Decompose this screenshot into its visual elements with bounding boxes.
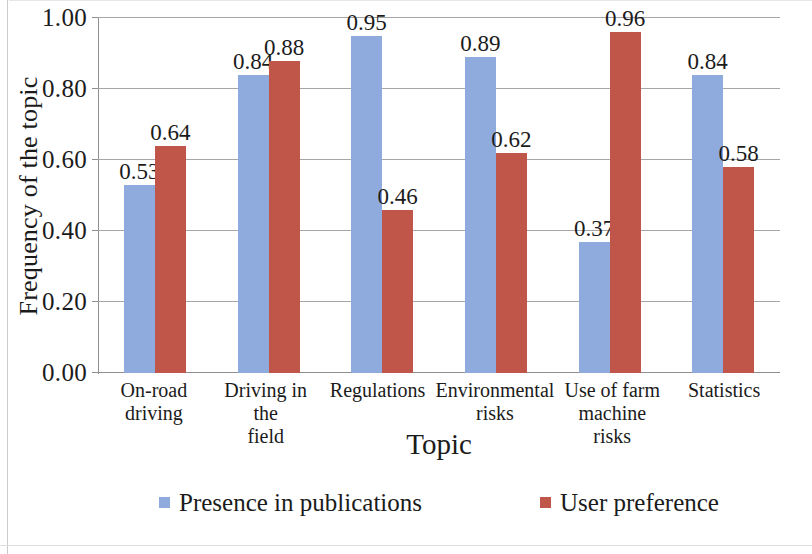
bars-layer: 0.530.640.840.880.950.460.890.620.370.96… [98,18,780,373]
category-group: 0.530.64 [98,18,212,373]
y-axis-title-text: Frequency of the topic [14,76,44,315]
legend-swatch-icon [540,497,551,508]
bar-value-label: 0.88 [264,36,304,59]
category-group: 0.840.58 [666,18,780,373]
bar-pair: 0.840.58 [666,18,780,373]
bar: 0.37 [579,242,610,373]
bar: 0.84 [238,75,269,373]
x-axis-category-label-line: risks [435,402,554,425]
legend: Presence in publicationsUser preference [98,490,780,515]
bar-pair: 0.840.88 [212,18,326,373]
bar-value-label: 0.84 [688,50,728,73]
y-axis-title: Frequency of the topic [8,18,50,373]
bar: 0.46 [382,210,413,373]
bar: 0.88 [269,61,300,373]
x-axis-title: Topic [98,428,780,461]
bar: 0.84 [692,75,723,373]
x-axis-category-label-line: Regulations [324,379,432,402]
legend-label: Presence in publications [179,490,422,515]
y-axis-tick-label: 0.00 [42,360,87,385]
bar: 0.53 [124,185,155,373]
bar: 0.96 [610,32,641,373]
bar-pair: 0.370.96 [553,18,667,373]
bar-value-label: 0.53 [119,160,159,183]
bar: 0.89 [465,57,496,373]
legend-item[interactable]: User preference [540,490,719,515]
category-group: 0.840.88 [212,18,326,373]
bar-value-label: 0.37 [574,217,614,240]
category-group: 0.890.62 [439,18,553,373]
legend-item[interactable]: Presence in publications [159,490,422,515]
y-axis-tick-label: 0.40 [42,218,87,243]
bar: 0.58 [723,167,754,373]
x-axis-category-label-line: Use of farm [558,379,666,402]
bar-chart: Frequency of the topic 1.000.800.600.400… [0,0,812,554]
bar-value-label: 0.58 [719,142,759,165]
bar-pair: 0.530.64 [98,18,212,373]
x-axis-category-label-line: Driving in the [212,379,320,425]
legend-swatch-icon [159,497,170,508]
bar: 0.62 [496,153,527,373]
bar-value-label: 0.89 [460,32,500,55]
bar-value-label: 0.96 [605,7,645,30]
x-axis-category-label-line: Environmental [435,379,554,402]
bar-pair: 0.950.46 [325,18,439,373]
category-group: 0.950.46 [325,18,439,373]
x-axis-category-label-line: On-road [100,379,208,402]
y-axis-tick-label: 0.60 [42,147,87,172]
bar-value-label: 0.64 [150,121,190,144]
legend-label: User preference [560,490,719,515]
bar: 0.64 [155,146,186,373]
plot-area: 1.000.800.600.400.200.00 0.530.640.840.8… [98,18,780,373]
x-axis-category-label-line: Statistics [670,379,778,402]
bar-value-label: 0.46 [378,185,418,208]
y-axis-tick-label: 1.00 [42,5,87,30]
bar-value-label: 0.95 [347,11,387,34]
y-axis-tick-label: 0.20 [42,289,87,314]
x-axis-category-label-line: driving [100,402,208,425]
category-group: 0.370.96 [553,18,667,373]
bar-value-label: 0.62 [491,128,531,151]
bar-pair: 0.890.62 [439,18,553,373]
y-axis-tick-label: 0.80 [42,76,87,101]
